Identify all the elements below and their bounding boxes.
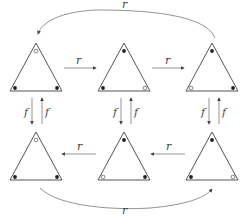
triangle-top-3 bbox=[186, 43, 238, 91]
label-r-top-curve: r bbox=[122, 0, 128, 11]
filled-vertex-marker bbox=[231, 86, 235, 90]
curved-arrow-top bbox=[38, 10, 215, 38]
label-f-2b: f bbox=[133, 106, 140, 119]
filled-vertex-marker bbox=[13, 175, 17, 179]
filled-vertex-marker bbox=[143, 175, 147, 179]
open-vertex-marker bbox=[143, 86, 147, 90]
filled-vertex-marker bbox=[189, 175, 193, 179]
label-f-2a: f bbox=[112, 106, 119, 119]
triangle-bottom-3 bbox=[186, 132, 238, 180]
open-vertex-marker bbox=[101, 175, 105, 179]
filled-vertex-marker bbox=[122, 138, 126, 142]
open-vertex-marker bbox=[34, 49, 38, 53]
open-vertex-marker bbox=[189, 86, 193, 90]
filled-vertex-marker bbox=[55, 86, 59, 90]
f-arrows-col-3 bbox=[209, 98, 219, 124]
label-f-1a: f bbox=[23, 106, 30, 119]
label-r-top-2: r bbox=[165, 54, 171, 67]
triangle-bottom-1 bbox=[10, 132, 62, 180]
open-vertex-marker bbox=[231, 175, 235, 179]
triangle-top-2 bbox=[98, 43, 150, 91]
filled-vertex-marker bbox=[101, 86, 105, 90]
filled-vertex-marker bbox=[122, 49, 126, 53]
label-f-1b: f bbox=[44, 106, 51, 119]
filled-vertex-marker bbox=[55, 175, 59, 179]
label-r-bottom-1: r bbox=[77, 140, 83, 153]
filled-vertex-marker bbox=[13, 86, 17, 90]
label-f-3a: f bbox=[200, 106, 207, 119]
triangle-symmetry-diagram: r r r r r r f f f f f f bbox=[0, 0, 251, 218]
label-r-bottom-2: r bbox=[166, 140, 172, 153]
label-f-3b: f bbox=[221, 106, 228, 119]
open-vertex-marker bbox=[34, 138, 38, 142]
label-r-top-1: r bbox=[76, 54, 82, 67]
f-arrows-col-1 bbox=[32, 98, 42, 124]
filled-vertex-marker bbox=[210, 49, 214, 53]
f-arrows-col-2 bbox=[121, 98, 131, 124]
filled-vertex-marker bbox=[210, 138, 214, 142]
label-r-bottom-curve: r bbox=[122, 204, 128, 217]
triangle-bottom-2 bbox=[98, 132, 150, 180]
triangle-top-1 bbox=[10, 43, 62, 91]
